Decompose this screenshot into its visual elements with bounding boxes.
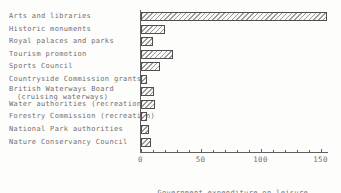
axis-tick-minor (309, 150, 310, 153)
axis-tick-major (141, 149, 142, 153)
bar (141, 25, 165, 34)
bar (141, 87, 154, 96)
axis-tick-minor (177, 150, 178, 153)
axis-tick-minor (225, 150, 226, 153)
axis-tick-minor (213, 150, 214, 153)
axis-tick-minor (273, 150, 274, 153)
bar (141, 37, 153, 46)
category-label: Historic monuments (9, 25, 91, 33)
axis-tick-minor (153, 150, 154, 153)
category-label: Countryside Commission grants (9, 75, 141, 83)
x-axis-caption: Government expenditure on leisure, 1979-… (138, 166, 332, 193)
axis-tick-minor (297, 150, 298, 153)
bar (141, 100, 155, 109)
chart-figure: Arts and librariesHistoric monumentsRoya… (0, 0, 341, 193)
category-label: Water authorities (recreation) (9, 100, 146, 108)
tick-label: 50 (186, 155, 216, 164)
category-label: Sports Council (9, 62, 73, 70)
axis-tick-minor (165, 150, 166, 153)
axis-tick-minor (237, 150, 238, 153)
category-label-line1: British Waterways Board (9, 85, 114, 93)
axis-tick-minor (285, 150, 286, 153)
bar (141, 50, 173, 59)
bar (141, 62, 160, 71)
category-label: National Park authorities (9, 125, 123, 133)
bar (141, 112, 147, 121)
axis-tick-minor (189, 150, 190, 153)
x-axis-line (140, 152, 328, 153)
bar (141, 12, 327, 21)
tick-label: 0 (126, 155, 156, 164)
axis-tick-major (201, 149, 202, 153)
category-label: Royal palaces and parks (9, 37, 114, 45)
tick-label: 100 (246, 155, 276, 164)
axis-tick-major (261, 149, 262, 153)
axis-tick-major (321, 149, 322, 153)
bar (141, 75, 147, 84)
category-label: Arts and libraries (9, 12, 91, 20)
category-label: Tourism promotion (9, 50, 87, 58)
bar (141, 125, 149, 134)
category-label: Nature Conservancy Council (9, 138, 128, 146)
tick-label: 150 (306, 155, 336, 164)
axis-tick-minor (249, 150, 250, 153)
bar (141, 138, 151, 147)
caption-line-1: Government expenditure on leisure, (138, 188, 332, 193)
category-label: Forestry Commission (recreation) (9, 112, 155, 120)
